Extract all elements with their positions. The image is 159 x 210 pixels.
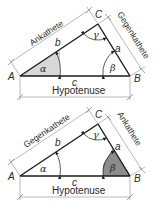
diagram-beta: A B C a b c α β γ Gegenkathete Ankathete… <box>7 107 145 200</box>
dimension-label-c: Hypotenuse <box>52 185 106 196</box>
tick-mark <box>86 107 92 113</box>
side-b-edge <box>20 124 98 176</box>
vertex-a-label: A <box>7 171 15 182</box>
vertex-b-label: B <box>134 73 141 84</box>
gamma-label: γ <box>93 29 99 40</box>
dimension-label-b: Gegenkathete <box>22 112 72 150</box>
side-b-label: b <box>55 137 61 148</box>
side-a-label: a <box>115 43 121 54</box>
alpha-label: α <box>40 163 47 174</box>
dimension-label-c: Hypotenuse <box>52 85 106 96</box>
side-a-label: a <box>115 141 121 152</box>
tick-mark <box>86 7 92 13</box>
triangle-diagrams: A B C a b c α β γ Ankathete Gegenkathete… <box>0 0 159 210</box>
vertex-c-label: C <box>95 109 103 120</box>
diagram-alpha: A B C a b c α β γ Ankathete Gegenkathete… <box>7 7 152 100</box>
tick-mark <box>105 114 111 120</box>
tick-mark <box>105 14 111 20</box>
gamma-label: γ <box>93 129 99 140</box>
vertex-c-label: C <box>95 9 103 20</box>
beta-label: β <box>109 162 116 173</box>
side-b-label: b <box>55 37 61 48</box>
alpha-arc <box>56 152 60 176</box>
tick-mark <box>8 159 14 165</box>
vertex-a-label: A <box>7 71 15 82</box>
dimension-line-b <box>11 110 89 162</box>
beta-shaded-region <box>103 148 130 176</box>
tick-mark <box>8 59 14 65</box>
beta-label: β <box>109 62 116 73</box>
vertex-b-label: B <box>134 173 141 184</box>
alpha-label: α <box>40 63 47 74</box>
dimension-label-a: Gegenkathete <box>115 10 152 61</box>
